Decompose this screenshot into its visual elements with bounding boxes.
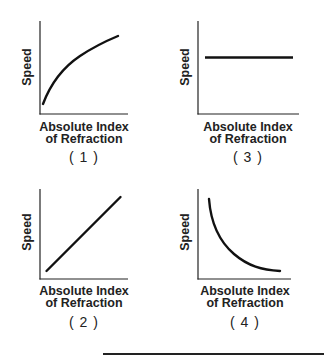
graph-3-y-axis-label: Speed	[178, 45, 192, 89]
graph-1-curve	[43, 36, 118, 104]
graph-4-y-axis-label: Speed	[178, 210, 192, 254]
answer-line	[103, 353, 324, 355]
graph-4-x-axis-label-line2: of Refraction	[185, 297, 305, 309]
graph-3-x-axis-label-line2: of Refraction	[188, 133, 308, 145]
graph-4-curve	[209, 199, 280, 271]
graph-1-y-axis-label: Speed	[20, 45, 34, 89]
graph-2-y-axis-label: Speed	[20, 210, 34, 254]
graph-3: Speed Absolute Index of Refraction ( 3 )	[162, 0, 324, 170]
graph-1-number-label: ( 1 )	[24, 149, 144, 165]
graph-1: Speed Absolute Index of Refraction ( 1 )	[0, 0, 162, 170]
graph-2-curve	[47, 197, 121, 271]
graph-2-x-axis-label-line2: of Refraction	[24, 297, 144, 309]
graph-1-x-axis-label-line2: of Refraction	[24, 133, 144, 145]
graph-4: Speed Absolute Index of Refraction ( 4 )	[162, 170, 324, 335]
graph-3-number-label: ( 3 )	[188, 149, 308, 165]
graph-2: Speed Absolute Index of Refraction ( 2 )	[0, 170, 162, 335]
graph-2-number-label: ( 2 )	[24, 314, 144, 330]
graph-4-number-label: ( 4 )	[185, 314, 305, 330]
